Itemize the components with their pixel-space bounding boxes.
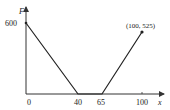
point-annotation: (100, 525): [126, 22, 156, 30]
x-tick-label-0: 0: [27, 98, 31, 107]
y-axis-label: F: [18, 7, 24, 16]
data-line: [26, 23, 142, 94]
point-0-600: [25, 22, 28, 25]
x-tick-label-100: 100: [136, 98, 148, 107]
y-tick-label-600: 600: [5, 19, 17, 28]
point-100-525: [140, 30, 143, 33]
x-tick-label-65: 65: [97, 98, 105, 107]
chart: F 600 0 40 65 100 x (100, 525): [0, 0, 170, 110]
x-tick-label-40: 40: [74, 98, 82, 107]
x-axis-label: x: [157, 98, 162, 107]
